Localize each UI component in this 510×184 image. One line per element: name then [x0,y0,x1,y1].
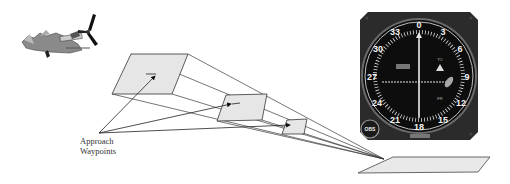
compass-12: 12 [456,98,466,108]
approach-diagram: 0 3 6 9 12 15 18 21 24 27 30 33 TO [0,0,510,184]
runway-plane [358,157,490,173]
compass-27: 27 [367,72,377,82]
compass-15: 15 [438,115,448,125]
label-line-2: Waypoints [80,146,116,156]
compass-21: 21 [390,115,400,125]
waypoint-box-3 [282,119,307,134]
cdi-instrument-icon: 0 3 6 9 12 15 18 21 24 27 30 33 TO [360,12,478,140]
compass-9: 9 [464,72,469,82]
waypoint-box-2 [217,94,267,121]
fr-flag-label: FR [437,96,442,101]
approach-waypoints-label: Approach Waypoints [80,136,116,156]
compass-30: 30 [373,44,383,54]
compass-33: 33 [390,27,400,37]
compass-6: 6 [457,44,462,54]
compass-24: 24 [372,98,382,108]
label-line-1: Approach [80,136,116,146]
compass-0: 0 [416,20,421,30]
compass-3: 3 [440,27,445,37]
obs-knob-label: OBS [365,126,377,132]
to-flag-label: TO [437,57,442,62]
compass-18: 18 [414,122,424,132]
tiltrotor-aircraft-icon [22,14,98,58]
